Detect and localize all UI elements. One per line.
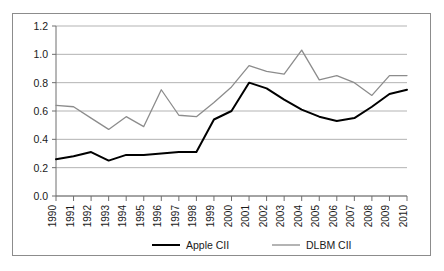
x-tick-label: 1995 — [135, 205, 146, 228]
chart-figure: 0.00.20.40.60.81.01.2 199019911992199319… — [0, 0, 444, 271]
x-tick-label: 2007 — [345, 205, 356, 228]
x-tick-label: 1998 — [187, 205, 198, 228]
x-tick-label: 2005 — [310, 205, 321, 228]
x-tick-label: 1990 — [47, 205, 58, 228]
x-tick-label: 1992 — [82, 205, 93, 228]
legend-label-apple-cii: Apple CII — [186, 239, 229, 251]
y-tick-label: 0.4 — [33, 133, 48, 145]
x-axis-tick-labels: 1990199119921993199419951996199719981999… — [47, 205, 409, 228]
x-tick-label: 2006 — [328, 205, 339, 228]
y-tick-label: 1.0 — [33, 48, 48, 60]
x-tick-label: 2010 — [398, 205, 409, 228]
x-tick-label: 2009 — [380, 205, 391, 228]
y-axis-tick-labels: 0.00.20.40.60.81.01.2 — [33, 20, 48, 202]
x-tick-label: 2002 — [258, 205, 269, 228]
x-tick-label: 1993 — [100, 205, 111, 228]
y-tick-label: 0.8 — [33, 77, 48, 89]
legend-label-dlbm-cii: DLBM CII — [306, 239, 352, 251]
x-tick-label: 1994 — [117, 205, 128, 228]
x-tick-label: 1997 — [170, 205, 181, 228]
data-series — [56, 50, 407, 161]
x-tick-label: 1991 — [65, 205, 76, 228]
line-chart: 0.00.20.40.60.81.01.2 199019911992199319… — [0, 0, 444, 271]
x-tick-label: 1999 — [205, 205, 216, 228]
y-tick-label: 1.2 — [33, 20, 48, 32]
y-tick-label: 0.2 — [33, 162, 48, 174]
x-tick-label: 2001 — [240, 205, 251, 228]
x-tick-label: 2004 — [293, 205, 304, 228]
x-tick-label: 2000 — [223, 205, 234, 228]
y-tick-label: 0.6 — [33, 105, 48, 117]
tick-marks — [52, 26, 407, 201]
x-tick-label: 2008 — [363, 205, 374, 228]
x-tick-label: 1996 — [152, 205, 163, 228]
y-tick-label: 0.0 — [33, 190, 48, 202]
chart-legend: Apple CIIDLBM CII — [152, 239, 352, 251]
series-line-apple-cii — [56, 83, 407, 161]
x-tick-label: 2003 — [275, 205, 286, 228]
